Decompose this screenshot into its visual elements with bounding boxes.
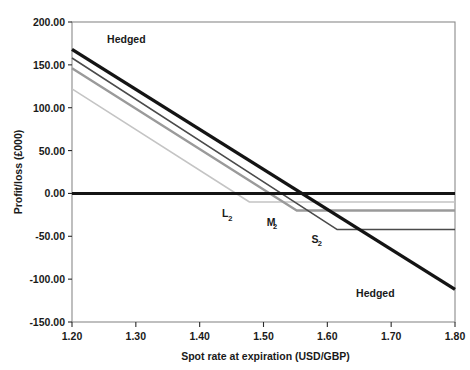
hedged-label-lower: Hedged (356, 287, 395, 299)
y-axis-tick-label: -50.00 (35, 230, 65, 242)
hedged-label-lower-text: Hedged (356, 287, 395, 299)
x-axis-tick-label: 1.70 (381, 330, 402, 342)
l2-label: L2 (222, 207, 232, 222)
y-axis-tick-label: 200.00 (33, 16, 65, 28)
series-line-hedged (72, 49, 455, 289)
series-line-m2 (72, 68, 455, 210)
s2-label-subscript: 2 (318, 239, 322, 248)
profit-loss-line-chart: 200.00150.00100.0050.000.00-50.00-100.00… (0, 0, 470, 370)
m2-label-subscript: 2 (273, 222, 277, 231)
l2-label-subscript: 2 (228, 214, 232, 223)
hedged-label-upper: Hedged (107, 33, 146, 45)
x-axis-tick-label: 1.30 (126, 330, 147, 342)
x-axis-tick-label: 1.50 (253, 330, 274, 342)
y-axis-tick-label: -100.00 (29, 273, 65, 285)
hedged-label-upper-text: Hedged (107, 33, 146, 45)
x-axis-title: Spot rate at expiration (USD/GBP) (181, 350, 350, 362)
y-axis-title: Profit/loss (£000) (12, 130, 24, 215)
y-axis-tick-label: -150.00 (29, 316, 65, 328)
y-axis-tick-label: 100.00 (33, 102, 65, 114)
y-axis-tick-label: 50.00 (39, 145, 65, 157)
x-axis-tick-label: 1.20 (62, 330, 83, 342)
x-axis-tick-label: 1.80 (445, 330, 466, 342)
y-axis-tick-label: 150.00 (33, 59, 65, 71)
s2-label: S2 (311, 233, 321, 248)
chart-container: 200.00150.00100.0050.000.00-50.00-100.00… (0, 0, 470, 370)
plot-area-frame (72, 22, 455, 322)
y-axis-tick-label: 0.00 (45, 187, 66, 199)
x-axis-tick-label: 1.60 (317, 330, 338, 342)
x-axis-tick-label: 1.40 (189, 330, 210, 342)
m2-label: M2 (267, 216, 277, 231)
